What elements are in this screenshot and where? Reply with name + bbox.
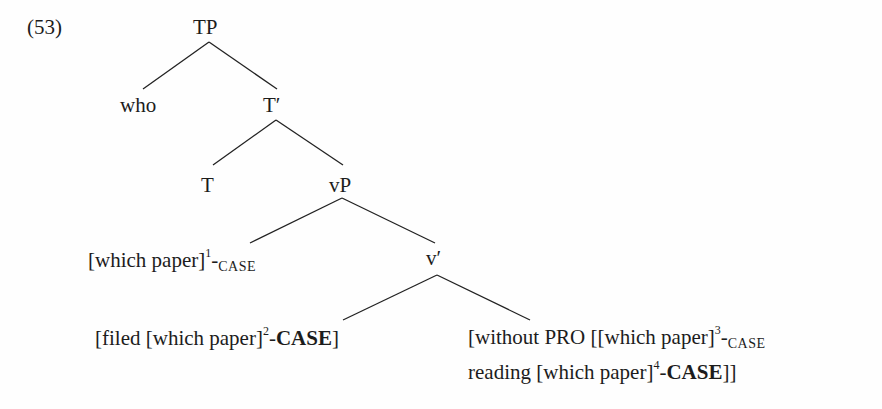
edge-vp-vbar [342, 198, 435, 243]
adjunct-line1-case: CASE [728, 336, 766, 351]
adjunct-line2-case: CASE [666, 360, 722, 384]
edge-tp-who [143, 42, 209, 89]
adjunct-line1-dash: - [721, 325, 728, 349]
adjunct-line-1: [without PRO [[which paper]3-CASE [468, 321, 766, 356]
node-who: who [120, 95, 156, 116]
node-adjunct: [without PRO [[which paper]3-CASE readin… [468, 321, 766, 389]
node-vp: vP [329, 175, 351, 196]
adjunct-line2-suffix: ]] [722, 360, 736, 384]
adjunct-line1-index: 3 [715, 323, 721, 337]
edge-vbar-adjunct [437, 275, 530, 320]
adjunct-line2-prefix: reading [which paper] [468, 360, 653, 384]
node-t: T [201, 175, 214, 196]
complement-suffix: ] [332, 326, 339, 350]
adjunct-line-2: reading [which paper]4-CASE]] [468, 356, 766, 389]
complement-dash: - [269, 326, 276, 350]
complement-prefix: [filed [which paper] [95, 326, 263, 350]
edge-tbar-vp [276, 120, 343, 165]
node-tp: TP [193, 17, 218, 38]
adjunct-line2-index: 4 [653, 358, 659, 372]
spec-vp-text: [which paper] [88, 248, 205, 272]
edge-tbar-t [213, 120, 276, 165]
edge-vp-spec [250, 198, 342, 243]
node-v-complement: [filed [which paper]2-CASE] [95, 328, 339, 349]
spec-vp-index: 1 [205, 246, 211, 260]
adjunct-line1-prefix: [without PRO [[which paper] [468, 325, 715, 349]
node-v-bar: v′ [426, 248, 441, 269]
node-spec-vp: [which paper]1-CASE [88, 250, 256, 271]
edge-vbar-complement [343, 275, 437, 320]
complement-case: CASE [276, 326, 332, 350]
edge-tp-tbar [209, 42, 277, 89]
complement-index: 2 [263, 324, 269, 338]
node-t-bar: T′ [263, 95, 280, 116]
spec-vp-case: CASE [218, 259, 256, 274]
